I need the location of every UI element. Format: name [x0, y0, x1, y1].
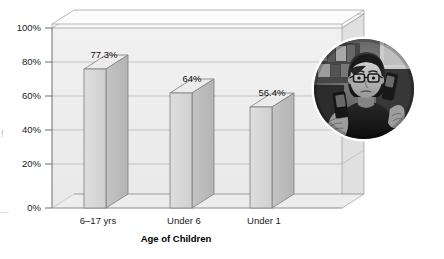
- y-tick-label-20: 20%: [8, 159, 41, 169]
- data-label-under-6: 64%: [160, 74, 224, 84]
- photo-illustration: [314, 39, 414, 139]
- y-tick-label-40: 40%: [8, 125, 41, 135]
- x-axis-title: Age of Children: [116, 234, 236, 244]
- bar-under-1[interactable]: [250, 93, 294, 208]
- y-axis: [45, 28, 52, 208]
- y-tick-label-100: 100%: [8, 23, 41, 33]
- chart-figure: 100% 80% 60% 40% 20% 0% 77.3% 64% 56.4% …: [0, 0, 444, 259]
- page-edge-fragment-upper: f: [1, 130, 4, 139]
- y-tick-label-0: 0%: [8, 203, 41, 213]
- x-tick-label-6-17-yrs: 6–17 yrs: [66, 216, 130, 226]
- y-tick-label-60: 60%: [8, 91, 41, 101]
- plot-top-face: [52, 10, 364, 28]
- woman-on-two-phones-photo: [314, 39, 414, 139]
- bar-6-17-yrs[interactable]: [84, 55, 128, 208]
- page-edge-fragment-lower: —: [0, 208, 9, 217]
- y-tick-label-80: 80%: [8, 57, 41, 67]
- x-tick-label-under-1: Under 1: [232, 216, 296, 226]
- data-label-under-1: 56.4%: [240, 88, 304, 98]
- x-tick-label-under-6: Under 6: [152, 216, 216, 226]
- bar-under-6[interactable]: [170, 79, 214, 208]
- data-label-6-17-yrs: 77.3%: [72, 50, 136, 60]
